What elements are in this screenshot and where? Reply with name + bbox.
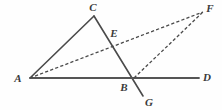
vertex-label-D: D	[203, 72, 211, 83]
vertex-label-A: A	[14, 73, 21, 84]
geometry-figure: A B C D E F G	[0, 0, 222, 110]
segment-AF	[30, 12, 203, 78]
vertex-label-C: C	[89, 2, 96, 13]
diagram-canvas	[0, 0, 222, 110]
segment-CG	[94, 16, 143, 96]
vertex-label-F: F	[206, 3, 213, 14]
segment-AC	[30, 16, 94, 78]
vertex-label-B: B	[120, 82, 127, 93]
segment-BF	[134, 12, 203, 78]
vertex-label-E: E	[110, 28, 117, 39]
vertex-label-G: G	[145, 97, 153, 108]
